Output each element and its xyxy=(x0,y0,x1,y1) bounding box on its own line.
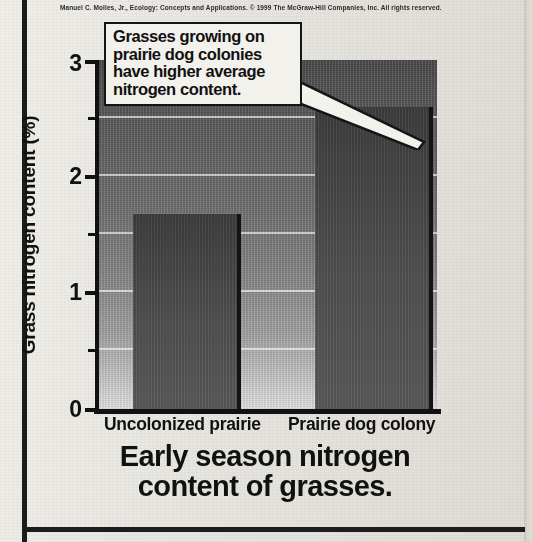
y-tick-minor-2-5 xyxy=(88,117,96,120)
y-axis-title: Grass nitrogen content (%) xyxy=(14,60,44,410)
page-bottom-rule xyxy=(22,527,525,532)
figure-caption-line-1: Early season nitrogen xyxy=(40,442,490,472)
y-tick-2 xyxy=(85,175,96,179)
bar-texture xyxy=(133,214,238,410)
y-tick-label-3: 3 xyxy=(69,52,82,75)
y-tick-3 xyxy=(85,60,96,64)
figure-caption-line-2: content of grasses. xyxy=(40,472,490,502)
bar-prairie-dog-colony xyxy=(315,107,430,410)
y-tick-1 xyxy=(85,291,96,295)
y-tick-0 xyxy=(85,408,96,412)
scanned-page: Manuel C. Molles, Jr., Ecology: Concepts… xyxy=(0,0,533,542)
copyright-credit-line: Manuel C. Molles, Jr., Ecology: Concepts… xyxy=(60,4,510,11)
y-axis-title-text: Grass nitrogen content (%) xyxy=(18,116,40,355)
y-tick-label-0: 0 xyxy=(69,398,82,421)
bar-right-edge xyxy=(237,214,241,410)
y-tick-minor-0-5 xyxy=(88,349,96,352)
page-right-border xyxy=(524,0,527,542)
bar-texture xyxy=(315,107,430,410)
callout-annotation: Grasses growing on prairie dog colonies … xyxy=(104,22,302,106)
x-category-label-uncolonized-prairie: Uncolonized prairie xyxy=(104,414,261,435)
y-tick-label-2: 2 xyxy=(69,165,82,188)
bar-right-edge xyxy=(429,107,433,410)
y-tick-label-1: 1 xyxy=(69,281,82,304)
x-category-label-prairie-dog-colony: Prairie dog colony xyxy=(288,414,435,435)
figure-caption: Early season nitrogen content of grasses… xyxy=(40,442,490,501)
bar-uncolonized-prairie xyxy=(133,214,238,410)
y-tick-minor-1-5 xyxy=(88,233,96,236)
callout-pointer-icon xyxy=(296,80,426,150)
